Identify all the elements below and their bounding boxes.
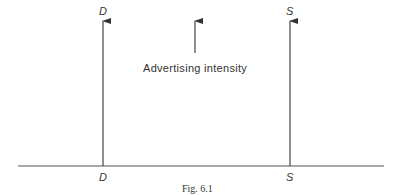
demand-top-label: D (99, 6, 107, 17)
diagram-canvas (0, 0, 398, 195)
demand-bottom-label: D (99, 172, 107, 183)
figure-caption: Fig. 6.1 (182, 184, 213, 194)
supply-top-label: S (286, 6, 293, 17)
advertising-intensity-label: Advertising intensity (143, 63, 247, 74)
supply-bottom-label: S (286, 172, 293, 183)
